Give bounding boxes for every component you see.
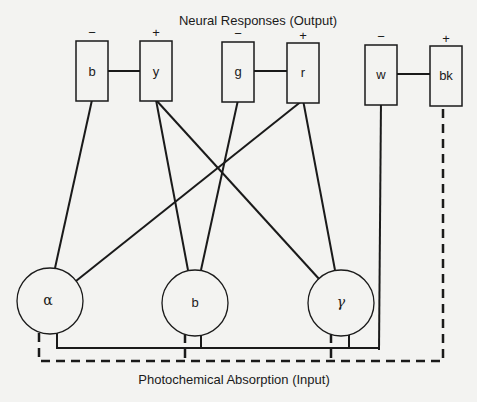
edge-bus-w [379,100,381,350]
sign-g: − [234,26,242,41]
sign-w: − [377,29,385,44]
edge-beta-y [156,100,188,270]
dashed-bus [39,100,443,361]
edge-gamma-r [303,100,335,270]
edge-alpha-r [76,100,303,281]
sign-y: + [152,25,160,40]
diagram-title: Neural Responses (Output) [179,13,337,28]
receptor-label-beta: b [191,295,198,310]
edge-alpha-b [55,100,92,268]
diagram-footer: Photochemical Absorption (Input) [138,372,330,387]
sign-r: + [299,28,307,43]
output-label-bk: bk [439,68,453,83]
output-label-b: b [88,64,95,79]
receptor-label-alpha: α [43,292,53,308]
edge-gamma-y [156,100,320,280]
sign-b: − [88,25,96,40]
sign-bk: + [442,31,450,46]
output-label-r: r [301,65,306,80]
receptor-label-gamma: γ [337,294,346,310]
output-label-w: w [375,67,386,82]
output-label-g: g [234,64,241,79]
opponent-process-diagram: Neural Responses (Output) − + − + − + b … [0,0,477,402]
output-label-y: y [153,64,160,79]
